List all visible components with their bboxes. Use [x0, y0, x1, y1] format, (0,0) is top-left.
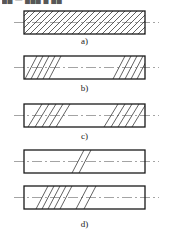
panel-label-b: b)	[0, 83, 169, 93]
panel-label-a: a)	[0, 36, 169, 46]
panel-d2-drawing	[14, 186, 159, 209]
technical-drawing-figure: ██ — ███ █ ██	[0, 0, 169, 235]
panel-label-d: d)	[0, 219, 169, 229]
panel-d1-drawing	[14, 150, 159, 173]
panel-c-drawing	[14, 104, 159, 127]
panel-a-drawing	[6, 11, 167, 34]
panel-b-drawing	[14, 56, 159, 79]
panel-label-c: c)	[0, 131, 169, 141]
